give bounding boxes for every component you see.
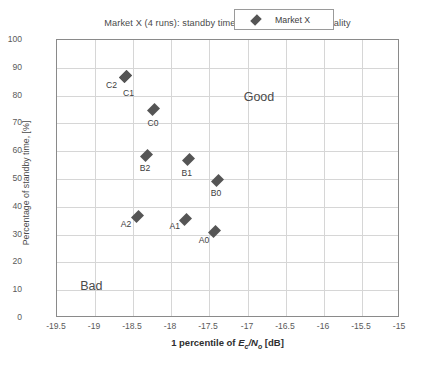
- legend-diamond-icon: [250, 14, 262, 26]
- y-tick-label: 90: [0, 62, 22, 72]
- x-gridline: [324, 40, 325, 316]
- chart-figure: Market X (4 runs): standby time versus c…: [0, 0, 426, 370]
- data-point-label-C1: C1: [123, 88, 134, 98]
- y-gridline: [57, 235, 398, 236]
- data-point-C1[interactable]: [119, 70, 132, 83]
- data-point-label-A0: A0: [199, 235, 210, 245]
- data-point-label-C2: C2: [106, 80, 117, 90]
- y-gridline: [57, 68, 398, 69]
- y-tick-label: 30: [0, 229, 22, 239]
- data-point-A1[interactable]: [179, 213, 192, 226]
- data-point-label-B0: B0: [211, 188, 222, 198]
- x-gridline: [95, 40, 96, 316]
- x-gridline: [171, 40, 172, 316]
- data-point-B1[interactable]: [182, 153, 195, 166]
- y-tick-label: 100: [0, 34, 22, 44]
- y-tick-label: 50: [0, 173, 22, 183]
- y-tick-label: 20: [0, 256, 22, 266]
- data-point-C0[interactable]: [147, 103, 160, 116]
- chart-title: Market X (4 runs): standby time versus c…: [56, 18, 399, 28]
- y-tick-label: 40: [0, 201, 22, 211]
- chart-legend: Market X: [234, 9, 334, 30]
- y-gridline: [57, 290, 398, 291]
- x-axis-label-no: N: [251, 337, 258, 348]
- data-point-label-A1: A1: [170, 221, 181, 231]
- x-gridline: [286, 40, 287, 316]
- y-tick-label: 80: [0, 90, 22, 100]
- x-tick-label: -15: [375, 321, 423, 331]
- region-annotation-bad: Bad: [80, 279, 102, 293]
- y-tick-label: 0: [0, 312, 22, 322]
- data-point-label-B2: B2: [140, 163, 151, 173]
- y-tick-label: 10: [0, 284, 22, 294]
- x-axis-label-suffix: [dB]: [262, 337, 284, 348]
- plot-area: GoodBadC2C1C0B2B1B0A2A1A0: [56, 39, 399, 317]
- x-gridline: [133, 40, 134, 316]
- x-gridline: [248, 40, 249, 316]
- data-point-label-A2: A2: [121, 219, 132, 229]
- x-gridline: [209, 40, 210, 316]
- data-point-B0[interactable]: [211, 174, 224, 187]
- x-gridline: [362, 40, 363, 316]
- data-point-label-C0: C0: [148, 118, 159, 128]
- y-gridline: [57, 96, 398, 97]
- y-gridline: [57, 262, 398, 263]
- y-tick-label: 70: [0, 117, 22, 127]
- data-point-label-B1: B1: [182, 168, 193, 178]
- x-axis-label-prefix: 1 percentile of: [171, 337, 238, 348]
- legend-entry-label: Market X: [275, 15, 310, 25]
- y-gridline: [57, 179, 398, 180]
- y-gridline: [57, 123, 398, 124]
- y-axis-label: Percentage of standby time, [%]: [21, 73, 31, 293]
- region-annotation-good: Good: [244, 90, 275, 104]
- y-gridline: [57, 151, 398, 152]
- x-axis-label: 1 percentile of Ec/No [dB]: [56, 337, 399, 350]
- y-tick-label: 60: [0, 145, 22, 155]
- y-gridline: [57, 207, 398, 208]
